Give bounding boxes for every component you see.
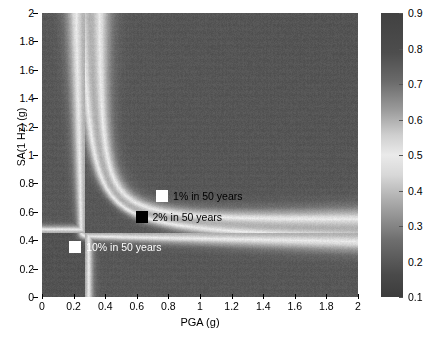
x-tick-mark-8 [295, 294, 296, 299]
colorbar-tick-mark-7 [399, 262, 403, 263]
colorbar-tick-mark-3 [399, 120, 403, 121]
colorbar-tick-mark-1 [399, 49, 403, 50]
x-tick-mark-3 [137, 294, 138, 299]
colorbar-tick-label-2: 0.7 [408, 79, 423, 90]
y-tick-label-7: 0.6 [19, 207, 34, 218]
y-tick-mark-6 [33, 183, 38, 184]
marker-square-10-percent-icon [69, 241, 81, 253]
x-tick-label-2: 0.4 [98, 301, 113, 312]
colorbar-tick-label-4: 0.5 [408, 150, 423, 161]
colorbar-tick-label-3: 0.6 [408, 114, 423, 125]
y-tick-label-9: 0.2 [19, 263, 34, 274]
y-tick-label-8: 0.4 [19, 235, 34, 246]
heatmap-image [42, 13, 358, 297]
x-tick-label-5: 1 [197, 301, 203, 312]
colorbar-tick-mark-4 [399, 155, 403, 156]
figure-container: 1% in 50 years 2% in 50 years 10% in 50 … [0, 0, 432, 343]
colorbar-tick-label-6: 0.3 [408, 221, 423, 232]
figure-caption [8, 333, 424, 343]
y-tick-label-2: 1.6 [19, 65, 34, 76]
colorbar-tick-label-1: 0.8 [408, 43, 423, 54]
x-tick-label-3: 0.6 [129, 301, 144, 312]
x-axis-ticks: 00.20.40.60.811.21.41.61.82 [42, 299, 358, 315]
y-tick-mark-0 [33, 13, 38, 14]
colorbar-tick-mark-0 [399, 13, 403, 14]
y-tick-mark-1 [33, 41, 38, 42]
x-tick-mark-9 [326, 294, 327, 299]
x-tick-label-6: 1.2 [224, 301, 239, 312]
marker-square-1-percent-icon [156, 190, 168, 202]
colorbar-tick-mark-2 [399, 84, 403, 85]
annotation-label-10-percent: 10% in 50 years [86, 242, 161, 253]
y-tick-mark-7 [33, 212, 38, 213]
colorbar-tick-label-0: 0.9 [408, 8, 423, 19]
y-axis-title: SA(1 Hz) (g) [15, 77, 27, 197]
colorbar-tick-mark-6 [399, 226, 403, 227]
x-tick-mark-1 [74, 294, 75, 299]
x-tick-label-0: 0 [39, 301, 45, 312]
colorbar-tick-mark-8 [399, 297, 403, 298]
annotation-label-1-percent: 1% in 50 years [173, 191, 242, 202]
x-tick-label-7: 1.4 [256, 301, 271, 312]
x-tick-label-4: 0.8 [161, 301, 176, 312]
colorbar-tick-label-8: 0.1 [408, 292, 423, 303]
x-tick-mark-4 [168, 294, 169, 299]
annotation-2-percent: 2% in 50 years [136, 211, 222, 223]
annotation-10-percent: 10% in 50 years [69, 241, 161, 253]
x-tick-mark-7 [263, 294, 264, 299]
colorbar-tick-label-5: 0.4 [408, 185, 423, 196]
y-tick-mark-3 [33, 98, 38, 99]
x-tick-label-10: 2 [355, 301, 361, 312]
colorbar-tick-label-7: 0.2 [408, 256, 423, 267]
x-tick-label-1: 0.2 [66, 301, 81, 312]
y-tick-mark-5 [33, 155, 38, 156]
x-tick-mark-5 [200, 294, 201, 299]
x-tick-mark-0 [42, 294, 43, 299]
colorbar-ticks: 0.90.80.70.60.50.40.30.20.1 [403, 13, 432, 297]
y-tick-label-1: 1.8 [19, 36, 34, 47]
y-tick-mark-9 [33, 269, 38, 270]
x-tick-mark-6 [232, 294, 233, 299]
annotation-1-percent: 1% in 50 years [156, 190, 242, 202]
marker-square-2-percent-icon [136, 211, 148, 223]
colorbar-tick-mark-5 [399, 191, 403, 192]
x-axis-title: PGA (g) [42, 316, 358, 328]
y-tick-mark-2 [33, 70, 38, 71]
heatmap-plot-area: 1% in 50 years 2% in 50 years 10% in 50 … [42, 13, 358, 297]
y-tick-mark-8 [33, 240, 38, 241]
annotation-label-2-percent: 2% in 50 years [153, 212, 222, 223]
x-tick-mark-2 [105, 294, 106, 299]
y-tick-mark-4 [33, 127, 38, 128]
x-tick-label-9: 1.8 [319, 301, 334, 312]
y-tick-mark-10 [33, 297, 38, 298]
x-tick-label-8: 1.6 [287, 301, 302, 312]
x-tick-mark-10 [358, 294, 359, 299]
